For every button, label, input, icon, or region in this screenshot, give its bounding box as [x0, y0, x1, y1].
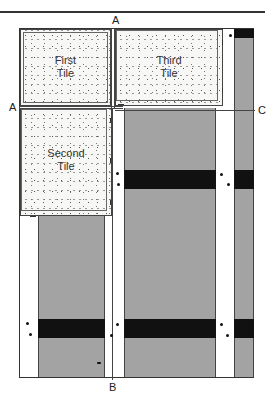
- nail-dot: [226, 334, 229, 337]
- edge-tick: [110, 158, 111, 163]
- label-c: C: [258, 104, 266, 116]
- second-tile: Second Tile: [20, 108, 112, 216]
- label-a-top: A: [112, 14, 119, 26]
- nail-dot: [26, 322, 29, 325]
- edge-tick: [110, 200, 111, 205]
- edge-tick: [30, 216, 36, 217]
- reference-line-a-horizontal-2: [19, 108, 123, 109]
- nail-dot: [220, 323, 223, 326]
- nail-dot: [29, 333, 32, 336]
- reference-line-b: [112, 108, 113, 380]
- second-tile-label-line1: Second: [21, 147, 111, 160]
- nail-dot: [116, 323, 119, 326]
- nail-dot: [110, 334, 113, 337]
- second-tile-label: Second Tile: [21, 147, 111, 173]
- edge-tick: [118, 104, 124, 105]
- third-tile: Third Tile: [115, 29, 223, 106]
- black-band-left: [38, 319, 105, 338]
- second-tile-label-line2: Tile: [21, 160, 111, 173]
- third-tile-label-line2: Tile: [116, 67, 222, 80]
- third-tile-label-line1: Third: [116, 54, 222, 67]
- reference-line-a-vertical-2: [114, 28, 115, 108]
- nail-dot: [229, 34, 232, 37]
- first-tile-label-line2: Tile: [21, 67, 110, 80]
- nail-dot: [220, 173, 223, 176]
- black-band-right-upper: [234, 170, 254, 189]
- black-band-middle-upper: [124, 170, 216, 189]
- reference-line-a-vertical: [111, 28, 112, 108]
- third-tile-label: Third Tile: [116, 54, 222, 80]
- edge-tick: [110, 118, 111, 123]
- reference-line-a-horizontal: [19, 106, 123, 107]
- nail-dot: [116, 172, 119, 175]
- nail-dot: [117, 183, 120, 186]
- first-tile-label: First Tile: [21, 54, 110, 80]
- first-tile: First Tile: [20, 29, 111, 106]
- edge-tick: [222, 40, 223, 45]
- black-band-middle-lower: [124, 319, 216, 338]
- label-b: B: [109, 381, 116, 393]
- label-a-left: A: [9, 101, 16, 113]
- edge-tick: [222, 88, 223, 93]
- nail-dot: [227, 183, 230, 186]
- gray-strip-left: [38, 216, 105, 377]
- black-band-right-lower: [234, 319, 254, 338]
- top-rule: [0, 11, 265, 13]
- black-band-right-top: [234, 29, 254, 38]
- nail-dot: [97, 362, 101, 364]
- reference-line-c: [115, 110, 255, 111]
- first-tile-label-line1: First: [21, 54, 110, 67]
